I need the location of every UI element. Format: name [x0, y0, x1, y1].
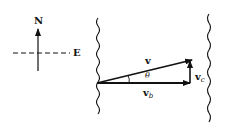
boat-velocity-subscript: b	[149, 92, 153, 100]
resultant-velocity-label: v	[145, 56, 151, 66]
angle-label: θ	[145, 72, 150, 80]
current-velocity-subscript: c	[201, 76, 205, 84]
compass	[13, 29, 70, 71]
angle-arc	[128, 76, 129, 84]
north-label: N	[34, 16, 43, 26]
current-velocity-label: vc	[195, 72, 205, 84]
boat-velocity-label: vb	[143, 88, 153, 100]
right-river-bank	[208, 14, 211, 122]
left-river-bank	[97, 18, 100, 114]
east-label: E	[73, 48, 81, 58]
